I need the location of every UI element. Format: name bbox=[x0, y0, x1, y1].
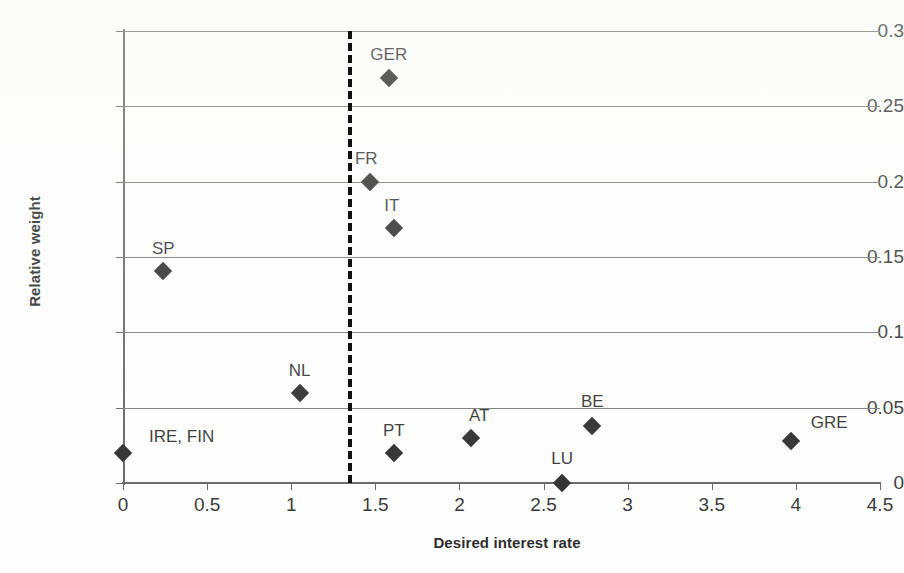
x-tick-label: 4 bbox=[766, 494, 826, 516]
x-tick-mark bbox=[375, 483, 376, 490]
data-point-label: LU bbox=[551, 449, 573, 469]
x-tick-label: 0.5 bbox=[177, 494, 237, 516]
gridline bbox=[123, 182, 880, 183]
x-tick-mark bbox=[459, 483, 460, 490]
x-tick-mark bbox=[712, 483, 713, 490]
data-point bbox=[782, 432, 800, 450]
data-point-label: BE bbox=[581, 392, 604, 412]
x-tick-label: 1 bbox=[261, 494, 321, 516]
data-point-label: GRE bbox=[811, 413, 848, 433]
x-tick-mark bbox=[123, 483, 124, 490]
data-point bbox=[154, 261, 172, 279]
y-axis-title: Relative weight bbox=[26, 132, 43, 372]
data-point-label: AT bbox=[469, 406, 489, 426]
data-point-label: SP bbox=[152, 239, 175, 259]
data-point bbox=[385, 219, 403, 237]
x-tick-mark bbox=[291, 483, 292, 490]
gridline bbox=[123, 257, 880, 258]
data-point-label: IRE, FIN bbox=[149, 427, 214, 447]
x-tick-mark bbox=[207, 483, 208, 490]
data-point bbox=[380, 69, 398, 87]
data-point-label: NL bbox=[289, 361, 311, 381]
gridline bbox=[123, 408, 880, 409]
x-tick-label: 3 bbox=[598, 494, 658, 516]
x-tick-label: 4.5 bbox=[850, 494, 904, 516]
x-tick-label: 2 bbox=[429, 494, 489, 516]
plot-area: IRE, FINSPNLGERFRITPTATLUBEGRE bbox=[123, 31, 880, 483]
x-tick-mark bbox=[628, 483, 629, 490]
x-tick-label: 2.5 bbox=[514, 494, 574, 516]
gridline bbox=[123, 106, 880, 107]
threshold-line bbox=[348, 31, 352, 483]
data-point bbox=[114, 444, 132, 462]
data-point bbox=[462, 429, 480, 447]
data-point bbox=[583, 417, 601, 435]
gridline bbox=[123, 31, 880, 32]
scatter-chart: Relative weight Desired interest rate 00… bbox=[0, 0, 904, 573]
data-point-label: IT bbox=[384, 196, 399, 216]
x-axis-title: Desired interest rate bbox=[0, 534, 904, 551]
data-point-label: PT bbox=[383, 421, 405, 441]
x-tick-mark bbox=[544, 483, 545, 490]
data-point bbox=[361, 172, 379, 190]
data-point-label: GER bbox=[370, 45, 407, 65]
x-tick-label: 0 bbox=[93, 494, 153, 516]
x-tick-label: 1.5 bbox=[345, 494, 405, 516]
data-point-label: FR bbox=[355, 149, 378, 169]
data-point bbox=[553, 474, 571, 492]
data-point bbox=[290, 383, 308, 401]
x-tick-mark bbox=[880, 483, 881, 490]
data-point bbox=[385, 444, 403, 462]
x-tick-label: 3.5 bbox=[682, 494, 742, 516]
gridline bbox=[123, 332, 880, 333]
x-tick-mark bbox=[796, 483, 797, 490]
